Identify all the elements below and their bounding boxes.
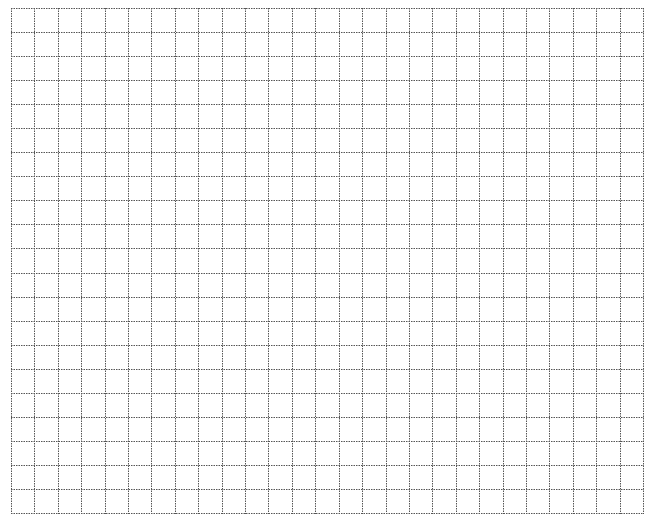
graph-paper-grid (11, 8, 644, 514)
